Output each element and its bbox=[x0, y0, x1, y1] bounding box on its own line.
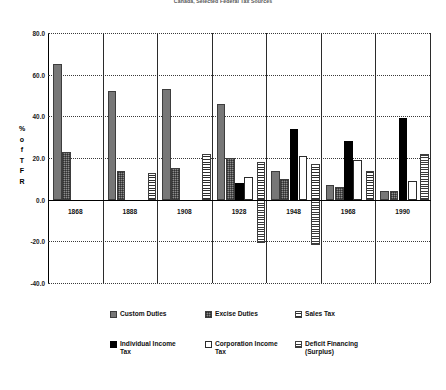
group-divider bbox=[157, 33, 158, 283]
bar-excise-1868 bbox=[62, 152, 71, 200]
bar-indiv-1990 bbox=[399, 118, 408, 199]
legend-item-corp[interactable]: Corporation IncomeTax bbox=[205, 340, 278, 357]
bar-excise-1948 bbox=[280, 179, 289, 200]
legend-label-line2: (Surplus) bbox=[305, 348, 358, 356]
legend-item-excise[interactable]: Excise Duties bbox=[205, 310, 258, 318]
x-axis-tick-label-1908: 1908 bbox=[177, 208, 192, 215]
legend-item-sales[interactable]: Sales Tax bbox=[295, 310, 335, 318]
legend-label-line1: Corporation Income bbox=[215, 340, 278, 348]
gridline bbox=[48, 75, 430, 76]
chart-title: Canada, Selected Federal Tax Sources bbox=[0, 0, 446, 6]
legend-label: Corporation IncomeTax bbox=[215, 340, 278, 357]
group-divider bbox=[430, 33, 431, 283]
x-axis-tick-label-1928: 1928 bbox=[232, 208, 247, 215]
legend-label-line1: Custom Duties bbox=[120, 310, 167, 318]
legend-label: Custom Duties bbox=[120, 310, 167, 318]
legend-swatch-sales-icon bbox=[295, 311, 302, 318]
bar-sales-1990 bbox=[366, 171, 375, 200]
x-axis-tick-label-1888: 1888 bbox=[123, 208, 138, 215]
chart-container: Canada, Selected Federal Tax Sources %of… bbox=[0, 0, 446, 390]
legend-label: Sales Tax bbox=[305, 310, 335, 318]
bar-custom-1968 bbox=[326, 185, 335, 200]
bar-indiv-1948 bbox=[290, 129, 299, 200]
gridline bbox=[48, 33, 430, 34]
gridline bbox=[48, 241, 430, 242]
bar-indiv-1968 bbox=[344, 141, 353, 199]
group-divider bbox=[266, 33, 267, 283]
legend-label-line2: Tax bbox=[120, 348, 176, 356]
gridline bbox=[48, 158, 430, 159]
legend-swatch-deficit-icon bbox=[295, 341, 302, 348]
bar-indiv-1928 bbox=[235, 183, 244, 200]
bar-corp-1990 bbox=[408, 181, 417, 200]
bar-custom-1990 bbox=[380, 191, 389, 199]
bar-custom-1868 bbox=[53, 64, 62, 199]
bar-sales-1928 bbox=[202, 154, 211, 200]
legend-label-line1: Deficit Financing bbox=[305, 340, 358, 348]
bar-excise-1928 bbox=[226, 158, 235, 200]
bar-corp-1968 bbox=[353, 160, 362, 200]
bar-deficit-1990 bbox=[420, 154, 429, 200]
y-axis-tick-label: -20.0 bbox=[5, 238, 45, 245]
x-axis-tick-labels: 1868188819081928194819681990 bbox=[48, 205, 431, 219]
y-axis-tick-label: 20.0 bbox=[5, 155, 45, 162]
legend-swatch-corp-icon bbox=[205, 341, 212, 348]
legend-item-indiv[interactable]: Individual IncomeTax bbox=[110, 340, 176, 357]
legend-label-line1: Excise Duties bbox=[215, 310, 258, 318]
bar-custom-1948 bbox=[271, 171, 280, 200]
plot-area bbox=[48, 33, 430, 283]
y-axis-tick-label: 60.0 bbox=[5, 71, 45, 78]
x-axis-tick-label-1868: 1868 bbox=[68, 208, 83, 215]
legend-item-custom[interactable]: Custom Duties bbox=[110, 310, 167, 318]
y-axis-tick-label: 0.0 bbox=[5, 196, 45, 203]
y-axis-tick-label: -40.0 bbox=[5, 280, 45, 287]
x-axis-zero-line bbox=[48, 200, 431, 201]
group-divider bbox=[375, 33, 376, 283]
legend-swatch-indiv-icon bbox=[110, 341, 117, 348]
legend-label-line1: Individual Income bbox=[120, 340, 176, 348]
bar-corp-1928 bbox=[244, 177, 253, 200]
bar-sales-1948 bbox=[257, 162, 266, 200]
y-axis-tick-label: 40.0 bbox=[5, 113, 45, 120]
legend-swatch-custom-icon bbox=[110, 311, 117, 318]
gridline bbox=[48, 283, 430, 284]
legend-label: Excise Duties bbox=[215, 310, 258, 318]
group-divider bbox=[212, 33, 213, 283]
bar-custom-1888 bbox=[108, 91, 117, 199]
group-divider bbox=[321, 33, 322, 283]
bar-custom-1908 bbox=[162, 89, 171, 199]
bar-corp-1948 bbox=[299, 156, 308, 200]
legend-item-deficit[interactable]: Deficit Financing(Surplus) bbox=[295, 340, 358, 357]
bar-excise-1888 bbox=[117, 171, 126, 200]
chart-legend: Custom DutiesExcise DutiesSales TaxIndiv… bbox=[0, 310, 446, 360]
legend-label: Individual IncomeTax bbox=[120, 340, 176, 357]
bar-excise-1908 bbox=[171, 168, 180, 199]
legend-swatch-excise-icon bbox=[205, 311, 212, 318]
bar-excise-1990 bbox=[390, 191, 399, 199]
x-axis-tick-label-1990: 1990 bbox=[395, 208, 410, 215]
legend-label-line1: Sales Tax bbox=[305, 310, 335, 318]
bar-sales-1968 bbox=[311, 164, 320, 199]
x-axis-tick-label-1948: 1948 bbox=[286, 208, 301, 215]
bar-custom-1928 bbox=[217, 104, 226, 200]
x-axis-tick-label-1968: 1968 bbox=[341, 208, 356, 215]
bar-excise-1968 bbox=[335, 187, 344, 200]
y-axis-tick-label: 80.0 bbox=[5, 30, 45, 37]
group-divider bbox=[103, 33, 104, 283]
legend-label-line2: Tax bbox=[215, 348, 278, 356]
legend-label: Deficit Financing(Surplus) bbox=[305, 340, 358, 357]
gridline bbox=[48, 116, 430, 117]
bar-sales-1908 bbox=[148, 173, 157, 200]
